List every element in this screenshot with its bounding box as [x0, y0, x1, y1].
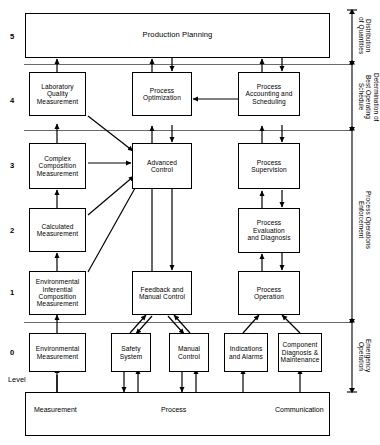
level-number-4: 4: [4, 96, 20, 105]
box-process-operation[interactable]: ProcessOperation: [238, 271, 300, 315]
bracket-label-determination-of-best-operating-schedule: Determination ofBest OperatingSchedule: [358, 68, 380, 126]
box-process-evaluation-and-diagnosis-label: ProcessEvaluationand Diagnosis: [247, 219, 290, 241]
level-number-1: 1: [4, 288, 20, 297]
bus-label-communication: Communication: [275, 406, 324, 413]
level-number-5: 5: [4, 32, 20, 41]
box-process-accounting-and-scheduling[interactable]: ProcessAccounting andScheduling: [238, 72, 300, 116]
box-environmental-measurement[interactable]: EnvironmentalMeasurement: [29, 333, 86, 372]
box-advanced-control-label: AdvancedControl: [147, 159, 177, 174]
box-laboratory-quality-measurement[interactable]: LaboratoryQualityMeasurement: [29, 72, 86, 116]
box-component-diagnosis-and-maintenance[interactable]: ComponentDiagnosis &Maintenance: [278, 333, 322, 372]
box-safety-system-label: SafetySystem: [120, 345, 143, 360]
level-number-2: 2: [4, 226, 20, 235]
box-feedback-and-manual-control[interactable]: Feedback andManual Control: [132, 271, 192, 315]
bracket-label-distribution-of-quantities: Distributionof Quantities: [358, 12, 372, 60]
box-laboratory-quality-measurement-label: LaboratoryQualityMeasurement: [37, 83, 78, 105]
level1-level0-links: [57, 315, 300, 335]
bus-label-measurement: Measurement: [34, 406, 77, 413]
box-advanced-control[interactable]: AdvancedControl: [132, 143, 192, 189]
advanced-feedback-links: [152, 181, 172, 271]
box-calculated-measurement[interactable]: CalculatedMeasurement: [29, 208, 86, 252]
box-process-optimization-label: ProcessOptimization: [143, 87, 181, 102]
box-complex-composition-measurement-label: ComplexCompositionMeasurement: [37, 155, 78, 177]
box-production-planning-label: Production Planning: [143, 31, 213, 40]
box-environmental-inferential-composition-measurement[interactable]: EnvironmentalInferentialCompositionMeasu…: [29, 271, 86, 315]
box-complex-composition-measurement[interactable]: ComplexCompositionMeasurement: [29, 143, 86, 189]
right-bracket-rails: [347, 9, 357, 393]
bracket-label-emergency-operation: EmergencyOperation: [358, 330, 372, 382]
box-process-optimization[interactable]: ProcessOptimization: [132, 72, 192, 116]
box-communication-bus[interactable]: [25, 392, 330, 436]
box-indications-and-alarms-label: Indicationsand Alarms: [229, 345, 263, 360]
level-number-0: 0: [4, 348, 20, 357]
box-process-operation-label: ProcessOperation: [254, 286, 284, 301]
box-feedback-and-manual-control-label: Feedback andManual Control: [139, 286, 185, 301]
box-production-planning[interactable]: Production Planning: [25, 13, 330, 58]
box-manual-control-label: ManualControl: [178, 345, 200, 360]
bus-label-process: Process: [161, 406, 186, 413]
box-manual-control[interactable]: ManualControl: [169, 333, 209, 372]
box-calculated-measurement-label: CalculatedMeasurement: [37, 223, 78, 238]
box-environmental-inferential-composition-measurement-label: EnvironmentalInferentialCompositionMeasu…: [36, 278, 79, 308]
box-process-evaluation-and-diagnosis[interactable]: ProcessEvaluationand Diagnosis: [238, 208, 300, 253]
bracket-label-process-operations-enforcement: Process OperationsEnforcement: [358, 160, 372, 280]
box-environmental-measurement-label: EnvironmentalMeasurement: [36, 345, 79, 360]
box-indications-and-alarms[interactable]: Indicationsand Alarms: [224, 333, 268, 372]
level-number-3: 3: [4, 161, 20, 170]
level-axis-caption: Level: [8, 375, 26, 384]
box-component-diagnosis-and-maintenance-label: ComponentDiagnosis &Maintenance: [281, 341, 320, 363]
box-process-supervision-label: ProcessSupervision: [251, 159, 287, 174]
box-process-accounting-and-scheduling-label: ProcessAccounting andScheduling: [246, 83, 293, 105]
box-process-supervision[interactable]: ProcessSupervision: [238, 143, 300, 189]
box-safety-system[interactable]: SafetySystem: [111, 333, 151, 372]
